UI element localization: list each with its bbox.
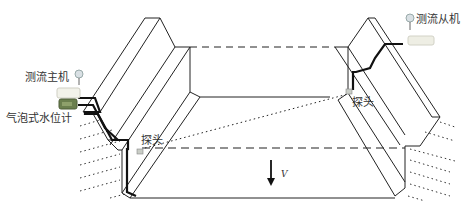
left-bank — [83, 18, 200, 198]
bubble-gauge-label: 气泡式水位计 — [6, 113, 72, 125]
left-probe-label: 探头 — [141, 135, 163, 147]
channel-flow-diagram: 测流主机 测流从机 气泡式水位计 探头 探头 V — [0, 0, 465, 212]
velocity-label: V — [281, 168, 288, 180]
right-probe-icon — [346, 89, 352, 94]
slave-unit-label: 测流从机 — [416, 14, 460, 26]
left-probe-icon — [137, 149, 143, 154]
right-probe-label: 探头 — [352, 97, 374, 109]
acoustic-path — [145, 94, 348, 148]
main-unit-label: 测流主机 — [25, 72, 69, 84]
right-soil-hatching — [408, 122, 455, 201]
velocity-arrow-icon — [267, 160, 275, 186]
channel-drawing — [0, 0, 465, 212]
left-cable — [78, 98, 136, 196]
